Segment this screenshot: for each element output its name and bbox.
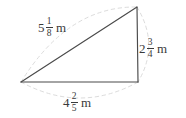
base-whole-number: 4 <box>63 96 70 109</box>
label-base-length: 4 2 5 m <box>63 92 91 114</box>
base-unit: m <box>81 96 91 109</box>
label-hypotenuse-length: 5 1 8 m <box>38 17 66 39</box>
hypotenuse-numerator: 1 <box>46 17 53 27</box>
vertical-numerator: 3 <box>147 38 154 48</box>
base-denominator: 5 <box>71 103 78 113</box>
vertical-whole-number: 2 <box>139 42 146 55</box>
vertical-unit: m <box>157 42 167 55</box>
hypotenuse-whole-number: 5 <box>38 21 45 34</box>
vertical-denominator: 4 <box>147 49 154 59</box>
hypotenuse-unit: m <box>56 21 66 34</box>
base-fraction: 2 5 <box>71 92 78 114</box>
label-vertical-side-length: 2 3 4 m <box>139 38 167 60</box>
vertical-fraction: 3 4 <box>147 38 154 60</box>
triangle-figure: 5 1 8 m 2 3 4 m 4 2 5 m <box>0 0 186 118</box>
base-numerator: 2 <box>71 92 78 102</box>
side-vertical <box>137 7 138 82</box>
hypotenuse-denominator: 8 <box>46 28 53 38</box>
hypotenuse-fraction: 1 8 <box>46 17 53 39</box>
